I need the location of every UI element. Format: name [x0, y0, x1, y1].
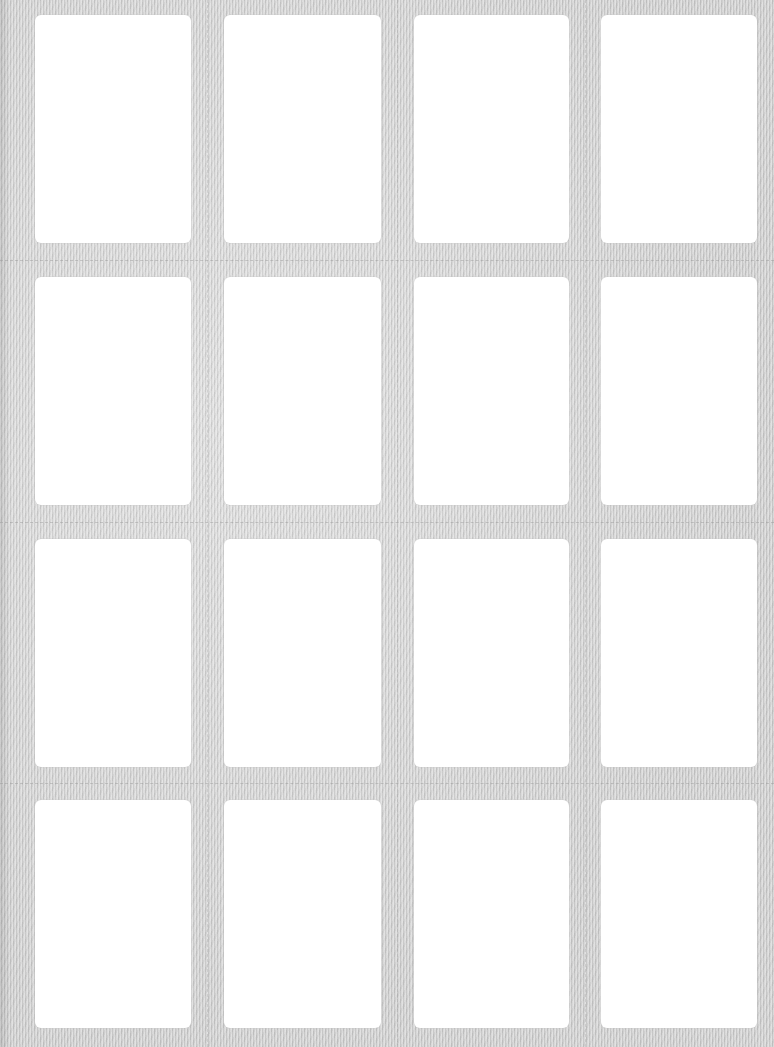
- perforation-line-col-3: [585, 0, 586, 1047]
- label-r4-c1[interactable]: [35, 800, 191, 1028]
- perforation-line-col-1: [207, 0, 208, 1047]
- label-r1-c4[interactable]: [601, 15, 757, 243]
- perforation-line-row-3: [0, 783, 774, 784]
- label-r2-c4[interactable]: [601, 277, 757, 505]
- label-r3-c2[interactable]: [224, 539, 381, 767]
- label-r3-c3[interactable]: [414, 539, 569, 767]
- label-r4-c3[interactable]: [414, 800, 569, 1028]
- perforation-line-col-2: [397, 0, 398, 1047]
- label-r4-c4[interactable]: [601, 800, 757, 1028]
- label-r1-c1[interactable]: [35, 15, 191, 243]
- label-r3-c4[interactable]: [601, 539, 757, 767]
- label-r2-c1[interactable]: [35, 277, 191, 505]
- label-r2-c3[interactable]: [414, 277, 569, 505]
- label-r3-c1[interactable]: [35, 539, 191, 767]
- label-r2-c2[interactable]: [224, 277, 381, 505]
- label-r1-c3[interactable]: [414, 15, 569, 243]
- sheet-edge-shadow: [0, 0, 10, 1047]
- label-sheet: [0, 0, 774, 1047]
- label-r1-c2[interactable]: [224, 15, 381, 243]
- perforation-line-row-2: [0, 522, 774, 523]
- perforation-line-row-1: [0, 260, 774, 261]
- label-r4-c2[interactable]: [224, 800, 381, 1028]
